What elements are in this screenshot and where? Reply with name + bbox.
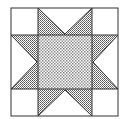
quilt-block-figure [0,0,125,119]
quilt-block-svg [0,0,125,119]
center-square [38,35,92,89]
